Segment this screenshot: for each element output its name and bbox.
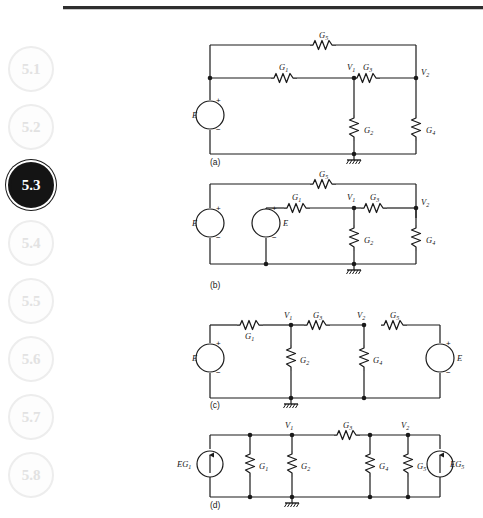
label-b-v1: V1 — [347, 192, 355, 203]
sidebar-item-5-5[interactable]: 5.5 — [8, 278, 54, 324]
label-b-minus-mid: − — [272, 233, 277, 242]
label-d-src-right: EG5 — [449, 459, 464, 470]
label-b-e-mid: E — [282, 218, 289, 228]
header-rule — [63, 6, 483, 9]
sidebar-item-label: 5.3 — [22, 177, 41, 194]
label-d-g2: G2 — [301, 461, 310, 472]
label-b-e-left: E — [191, 218, 198, 228]
label-a-plus: + — [216, 96, 221, 105]
label-c-v1: V1 — [284, 310, 292, 321]
label-d-src-left: EG1 — [176, 459, 191, 470]
panel-caption-a: (a) — [210, 157, 220, 167]
sidebar-item-5-3[interactable]: 5.3 — [8, 162, 54, 208]
sidebar-item-5-2[interactable]: 5.2 — [8, 104, 54, 150]
label-d-v2: V2 — [401, 420, 409, 431]
sidebar-item-5-1[interactable]: 5.1 — [8, 46, 54, 92]
label-b-g1: G1 — [292, 192, 301, 203]
sidebar-item-label: 5.5 — [22, 293, 41, 310]
label-b-plus-mid: + — [272, 204, 277, 213]
label-c-minus-right: − — [446, 368, 451, 377]
sidebar-item-label: 5.6 — [22, 351, 41, 368]
label-b-g4: G4 — [426, 235, 435, 246]
label-a-v1: V1 — [347, 62, 355, 73]
label-a-g3: G3 — [363, 62, 372, 73]
label-c-g1: G1 — [245, 331, 254, 342]
sidebar-item-label: 5.2 — [22, 119, 41, 136]
figure-circuit-diagrams: .w{stroke:#1a1a1a;stroke-width:1.2;fill:… — [64, 12, 483, 518]
sidebar-item-5-7[interactable]: 5.7 — [8, 394, 54, 440]
label-b-g2: G2 — [364, 235, 373, 246]
sidebar-item-label: 5.1 — [22, 61, 41, 78]
label-b-minus-left: − — [216, 233, 221, 242]
page-root: 5.1 5.2 5.3 5.4 5.5 5.6 5.7 5.8 — [0, 0, 483, 518]
label-b-g3: G3 — [370, 192, 379, 203]
label-a-e: E — [191, 110, 198, 120]
panel-caption-b: (b) — [210, 280, 220, 290]
label-d-g1: G1 — [259, 461, 268, 472]
label-c-e-right: E — [456, 353, 463, 363]
label-d-g3: G3 — [343, 420, 352, 431]
label-d-g4: G4 — [379, 461, 388, 472]
panel-d: G3 V1 V2 G1 G2 G4 G5 EG1 EG5 — [176, 420, 464, 507]
label-c-e-left: E — [191, 353, 198, 363]
panel-b: G5 G1 G3 V1 V2 G2 G4 E + − E + − — [191, 169, 435, 274]
label-c-g5: G5 — [390, 310, 399, 321]
sidebar-item-label: 5.4 — [22, 235, 41, 252]
label-c-plus-left: + — [216, 339, 221, 348]
label-c-g2: G2 — [300, 355, 309, 366]
label-a-g4: G4 — [426, 125, 435, 136]
label-c-g4: G4 — [373, 355, 382, 366]
panel-c: G1 G3 G5 V1 V2 G2 G4 E + − E + − — [191, 310, 463, 408]
sidebar-item-5-6[interactable]: 5.6 — [8, 336, 54, 382]
section-sidebar: 5.1 5.2 5.3 5.4 5.5 5.6 5.7 5.8 — [0, 0, 64, 518]
label-b-plus-left: + — [216, 204, 221, 213]
label-c-minus-left: − — [216, 368, 221, 377]
sidebar-item-label: 5.8 — [22, 467, 41, 484]
sidebar-item-5-8[interactable]: 5.8 — [8, 452, 54, 498]
label-a-g2: G2 — [364, 125, 373, 136]
label-d-v1: V1 — [285, 420, 293, 431]
sidebar-item-5-4[interactable]: 5.4 — [8, 220, 54, 266]
label-c-g3: G3 — [313, 310, 322, 321]
label-a-v2: V2 — [421, 67, 429, 78]
label-c-plus-right: + — [446, 339, 451, 348]
label-b-g5: G5 — [319, 169, 328, 180]
label-d-g5: G5 — [417, 461, 426, 472]
label-c-v2: V2 — [357, 310, 365, 321]
label-a-minus: − — [216, 125, 221, 134]
circuit-diagrams-svg: .w{stroke:#1a1a1a;stroke-width:1.2;fill:… — [64, 12, 483, 518]
panel-caption-c: (c) — [210, 400, 220, 410]
label-a-g1: G1 — [279, 62, 288, 73]
label-b-v2: V2 — [421, 197, 429, 208]
sidebar-item-label: 5.7 — [22, 409, 41, 426]
label-a-g5: G5 — [319, 30, 328, 41]
panel-a: G5 G1 G3 V1 V2 G2 G4 E + − — [191, 30, 435, 164]
panel-caption-d: (d) — [210, 500, 220, 510]
